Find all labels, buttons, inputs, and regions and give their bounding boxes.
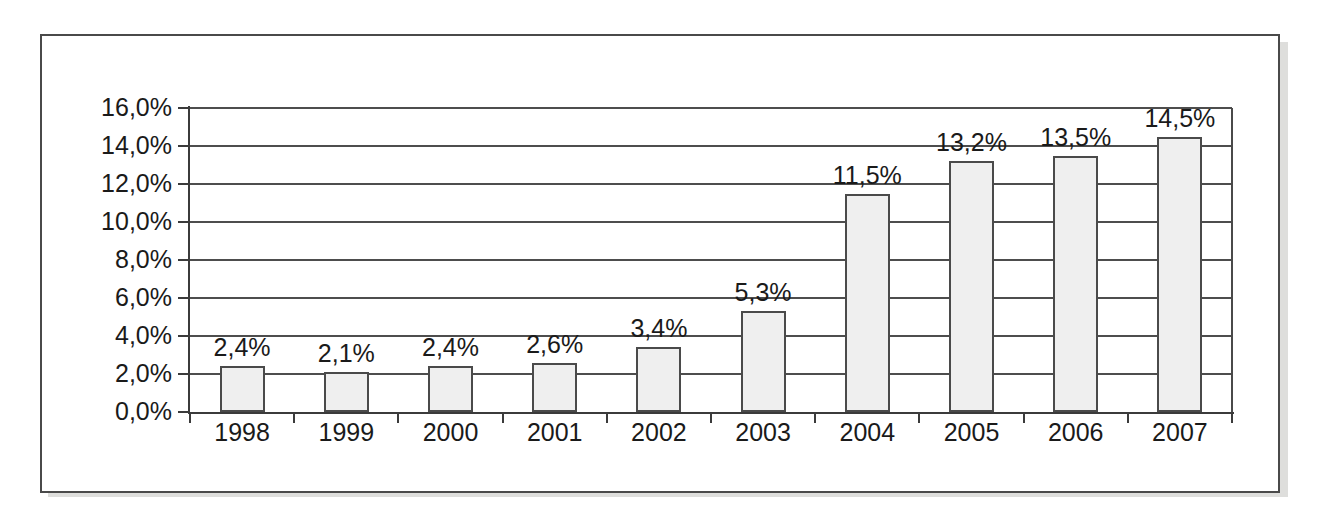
bar-value-label-2004: 11,5% xyxy=(797,163,937,188)
bar-2000 xyxy=(428,366,473,412)
bar-2003 xyxy=(741,311,786,412)
y-axis-tick-label: 2,0% xyxy=(62,361,172,386)
bar-value-label-2002: 3,4% xyxy=(589,316,729,341)
y-axis-tick-label: 4,0% xyxy=(62,323,172,348)
x-axis-tick-label-2007: 2007 xyxy=(1110,420,1250,445)
bar-2007 xyxy=(1157,137,1202,413)
bar-2004 xyxy=(845,194,890,413)
bar-1999 xyxy=(324,372,369,412)
y-axis-tick-label: 12,0% xyxy=(62,171,172,196)
gridline xyxy=(190,107,1232,109)
bar-2006 xyxy=(1053,156,1098,413)
chart-screenshot: 0,0%2,0%4,0%6,0%8,0%10,0%12,0%14,0%16,0%… xyxy=(0,0,1317,530)
y-axis-tick-label: 6,0% xyxy=(62,285,172,310)
y-axis-tick-label-group: 0,0%2,0%4,0%6,0%8,0%10,0%12,0%14,0%16,0% xyxy=(58,0,172,530)
y-axis-tick-label: 0,0% xyxy=(62,399,172,424)
bar-1998 xyxy=(220,366,265,412)
bar-2005 xyxy=(949,161,994,412)
bar-2001 xyxy=(532,363,577,412)
y-axis-tick-label: 16,0% xyxy=(62,95,172,120)
bar-value-label-2007: 14,5% xyxy=(1110,106,1250,131)
plot-right-border xyxy=(1231,108,1233,414)
bar-value-label-2003: 5,3% xyxy=(693,280,833,305)
y-axis-tick-label: 14,0% xyxy=(62,133,172,158)
y-axis-line xyxy=(188,106,190,414)
bar-2002 xyxy=(636,347,681,412)
y-axis-tick-label: 10,0% xyxy=(62,209,172,234)
y-axis-tick-label: 8,0% xyxy=(62,247,172,272)
